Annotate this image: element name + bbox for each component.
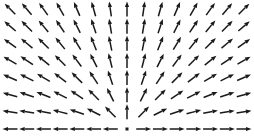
- arrow-head: [108, 19, 112, 25]
- arrow-shaft: [142, 41, 144, 50]
- arrow-shaft: [59, 7, 64, 15]
- arrow-shaft: [138, 110, 145, 117]
- arrow-head: [245, 92, 251, 96]
- arrow-head: [229, 109, 235, 113]
- arrow-head: [87, 109, 93, 113]
- arrow-shaft: [93, 59, 97, 68]
- arrow-head: [53, 127, 59, 131]
- arrow-shaft: [173, 42, 178, 50]
- arrow-head: [229, 127, 235, 131]
- arrow-head: [37, 74, 43, 79]
- arrow-shaft: [59, 42, 65, 49]
- arrow-group: [3, 2, 252, 132]
- arrow-shaft: [206, 7, 212, 15]
- arrow-shaft: [59, 76, 67, 82]
- arrow-head: [108, 36, 112, 42]
- arrow-shaft: [220, 94, 229, 97]
- arrow-head: [36, 92, 42, 96]
- arrow-shaft: [92, 76, 97, 84]
- arrow-shaft: [93, 7, 96, 16]
- arrow-shaft: [42, 7, 48, 15]
- arrow-shaft: [205, 59, 212, 65]
- arrow-shaft: [205, 42, 212, 49]
- arrow-shaft: [58, 111, 67, 113]
- arrow-head: [159, 54, 163, 60]
- arrow-head: [36, 109, 42, 113]
- arrow-head: [142, 19, 146, 25]
- arrow-shaft: [222, 7, 228, 14]
- arrow-shaft: [42, 59, 49, 65]
- arrow-head: [86, 127, 92, 131]
- arrow-shaft: [25, 59, 33, 64]
- arrow-head: [142, 2, 146, 8]
- arrow-shaft: [110, 41, 112, 50]
- arrow-shaft: [143, 7, 144, 16]
- arrow-head: [193, 2, 198, 8]
- arrow-head: [142, 70, 146, 76]
- arrow-shaft: [142, 24, 144, 33]
- arrow-head: [3, 127, 9, 131]
- arrow-shaft: [76, 42, 81, 50]
- arrow-shaft: [76, 7, 80, 16]
- arrow-shaft: [189, 59, 196, 66]
- arrow-head: [19, 127, 25, 131]
- arrow-shaft: [158, 41, 162, 50]
- arrow-shaft: [157, 59, 161, 68]
- arrow-head: [53, 91, 59, 95]
- arrow-shaft: [76, 59, 82, 67]
- arrow-head: [20, 92, 26, 96]
- arrow-shaft: [42, 77, 50, 82]
- arrow-shaft: [237, 59, 245, 64]
- arrow-head: [3, 57, 9, 62]
- arrow-shaft: [42, 94, 51, 98]
- arrow-shaft: [8, 94, 17, 97]
- arrow-shaft: [174, 24, 178, 32]
- arrow-shaft: [158, 24, 161, 33]
- arrow-shaft: [25, 77, 33, 81]
- arrow-shaft: [154, 111, 163, 115]
- arrow-shaft: [93, 24, 96, 33]
- arrow-head: [159, 19, 163, 25]
- arrow-head: [90, 54, 94, 60]
- arrow-shaft: [110, 7, 111, 16]
- arrow-head: [74, 19, 78, 25]
- arrow-head: [108, 53, 112, 59]
- arrow-head: [142, 53, 146, 59]
- arrow-shaft: [41, 111, 50, 113]
- arrow-head: [213, 127, 219, 131]
- arrow-shaft: [158, 7, 161, 16]
- arrow-shaft: [174, 7, 178, 16]
- arrow-shaft: [156, 76, 161, 84]
- arrow-head: [69, 127, 75, 131]
- arrow-head: [91, 36, 95, 42]
- arrow-shaft: [8, 77, 17, 81]
- arrow-head: [3, 75, 9, 79]
- arrow-shaft: [109, 110, 116, 117]
- arrow-shaft: [8, 25, 15, 31]
- arrow-head: [125, 53, 129, 59]
- arrow-shaft: [172, 76, 179, 83]
- arrow-shaft: [59, 24, 64, 32]
- arrow-head: [91, 19, 95, 25]
- arrow-head: [245, 57, 251, 62]
- arrow-shaft: [190, 7, 195, 15]
- arrow-head: [246, 127, 252, 131]
- arrow-shaft: [109, 93, 113, 101]
- arrow-shaft: [42, 25, 48, 32]
- arrow-head: [142, 36, 146, 42]
- arrow-shaft: [110, 58, 112, 67]
- arrow-head: [108, 2, 112, 8]
- arrow-shaft: [187, 111, 196, 113]
- arrow-head: [108, 70, 112, 76]
- arrow-shaft: [173, 59, 179, 67]
- arrow-shaft: [222, 25, 229, 32]
- arrow-shaft: [190, 24, 195, 32]
- arrow-shaft: [92, 93, 99, 100]
- arrow-shaft: [220, 112, 229, 114]
- arrow-shaft: [188, 76, 196, 82]
- arrow-shaft: [237, 77, 246, 81]
- arrow-shaft: [75, 94, 83, 99]
- arrow-head: [36, 127, 42, 131]
- arrow-shaft: [237, 112, 246, 113]
- arrow-head: [195, 109, 201, 113]
